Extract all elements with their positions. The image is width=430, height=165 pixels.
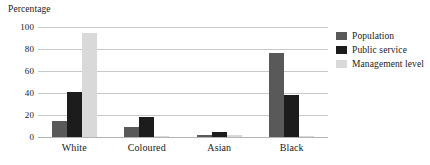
- y-tick-label: 80: [8, 44, 34, 54]
- bar-group: [269, 27, 314, 137]
- bar: [197, 135, 212, 137]
- legend-item[interactable]: Management level: [336, 57, 428, 71]
- plot-area: [38, 27, 328, 137]
- bar: [227, 135, 242, 137]
- legend-swatch-icon: [336, 60, 347, 68]
- y-tick-label: 100: [8, 22, 34, 32]
- x-category-label: Coloured: [111, 142, 184, 153]
- bar: [284, 95, 299, 137]
- bar: [52, 121, 67, 138]
- bar: [139, 117, 154, 137]
- legend-item[interactable]: Population: [336, 29, 428, 43]
- bar: [67, 92, 82, 137]
- legend-item-label: Public service: [352, 45, 407, 55]
- bar-chart: Percentage 100806040200 WhiteColouredAsi…: [0, 0, 430, 165]
- bar: [212, 132, 227, 138]
- y-axis-title: Percentage: [8, 4, 51, 14]
- x-category-label: Black: [256, 142, 329, 153]
- y-tick-label: 40: [8, 88, 34, 98]
- x-category-label: White: [38, 142, 111, 153]
- bar: [299, 136, 314, 137]
- legend-swatch-icon: [336, 46, 347, 54]
- bar: [124, 127, 139, 137]
- y-tick-label: 20: [8, 110, 34, 120]
- legend-item[interactable]: Public service: [336, 43, 428, 57]
- bar-group: [197, 27, 242, 137]
- x-category-label: Asian: [183, 142, 256, 153]
- bar: [154, 136, 169, 137]
- chart-legend: PopulationPublic serviceManagement level: [336, 29, 428, 71]
- x-axis-category-labels: WhiteColouredAsianBlack: [38, 142, 328, 160]
- bar-group: [124, 27, 169, 137]
- legend-item-label: Management level: [352, 59, 424, 69]
- gridline-0: [38, 137, 328, 138]
- legend-item-label: Population: [352, 31, 394, 41]
- bar: [269, 53, 284, 137]
- legend-swatch-icon: [336, 32, 347, 40]
- bar-group: [52, 27, 97, 137]
- bar: [82, 33, 97, 138]
- y-tick-label: 0: [8, 132, 34, 142]
- y-axis-tick-labels: 100806040200: [4, 27, 34, 137]
- y-tick-label: 60: [8, 66, 34, 76]
